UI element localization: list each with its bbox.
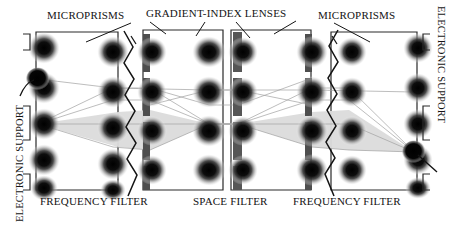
input-source-spot [26,68,50,91]
column-lens-center [192,36,226,186]
column-space-filter [228,37,258,185]
label-microprisms-right: MICROPRISMS [318,9,395,21]
optical-system-diagram [0,0,452,228]
column-input [28,32,60,201]
label-microprisms-left: MICROPRISMS [47,9,124,21]
label-frequency-filter-right: FREQUENCY FILTER [293,195,401,207]
label-electronic-support-left: ELECTRONIC SUPPORT [14,105,25,222]
output-detector-spot [402,141,426,164]
filter-bars [143,32,312,190]
column-prism-left [97,36,129,201]
label-frequency-filter-left: FREQUENCY FILTER [40,195,148,207]
label-gradient-index-lenses: GRADIENT-INDEX LENSES [146,7,286,19]
label-space-filter: SPACE FILTER [193,195,268,207]
figure-canvas: MICROPRISMS GRADIENT-INDEX LENSES MICROP… [0,0,452,228]
label-electronic-support-right: ELECTRONIC SUPPORT [436,6,447,123]
